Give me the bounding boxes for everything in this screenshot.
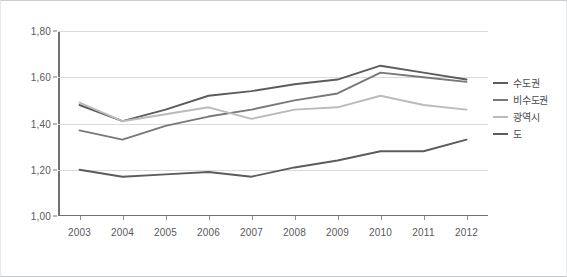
y-tick-label: 1,00 xyxy=(31,211,51,222)
x-tick-mark xyxy=(295,216,296,220)
x-tick-label: 2010 xyxy=(369,227,392,238)
legend: 수도권비수도권광역시도 xyxy=(493,75,563,143)
chart-figure: 1,001,201,401,601,80 2003200420052006200… xyxy=(0,0,567,277)
legend-label: 광역시 xyxy=(513,109,539,124)
y-tick-label: 1,60 xyxy=(31,72,51,83)
legend-item[interactable]: 수도권 xyxy=(493,75,563,90)
y-tick-mark xyxy=(53,77,57,78)
x-tick-mark xyxy=(381,216,382,220)
y-tick-label: 1,80 xyxy=(31,26,51,37)
legend-label: 수도권 xyxy=(513,75,539,90)
x-tick-label: 2012 xyxy=(455,227,478,238)
y-tick-mark xyxy=(53,216,57,217)
x-tick-mark xyxy=(123,216,124,220)
y-tick-mark xyxy=(53,123,57,124)
legend-color-swatch xyxy=(493,99,508,101)
series-lines xyxy=(58,31,488,216)
legend-item[interactable]: 도 xyxy=(493,126,563,141)
y-tick-label: 1,20 xyxy=(31,164,51,175)
x-tick-label: 2011 xyxy=(412,227,434,238)
x-tick-label: 2006 xyxy=(197,227,220,238)
legend-item[interactable]: 광역시 xyxy=(493,109,563,124)
x-tick-label: 2009 xyxy=(326,227,349,238)
x-tick-mark xyxy=(338,216,339,220)
y-tick-mark xyxy=(53,169,57,170)
series-line xyxy=(80,66,467,122)
x-tick-label: 2005 xyxy=(154,227,177,238)
x-tick-label: 2007 xyxy=(240,227,263,238)
x-tick-mark xyxy=(424,216,425,220)
legend-label: 도 xyxy=(513,126,522,141)
legend-label: 비수도권 xyxy=(513,92,548,107)
series-line xyxy=(80,73,467,140)
x-tick-mark xyxy=(467,216,468,220)
x-tick-mark xyxy=(252,216,253,220)
legend-item[interactable]: 비수도권 xyxy=(493,92,563,107)
x-tick-mark xyxy=(209,216,210,220)
y-tick-label: 1,40 xyxy=(31,118,51,129)
x-tick-label: 2003 xyxy=(68,227,91,238)
legend-color-swatch xyxy=(493,82,508,84)
series-line xyxy=(80,140,467,177)
legend-color-swatch xyxy=(493,116,508,118)
x-tick-label: 2004 xyxy=(111,227,134,238)
x-tick-label: 2008 xyxy=(283,227,306,238)
legend-color-swatch xyxy=(493,133,508,135)
x-tick-mark xyxy=(80,216,81,220)
plot-area: 1,001,201,401,601,80 2003200420052006200… xyxy=(58,31,488,216)
x-tick-mark xyxy=(166,216,167,220)
y-tick-mark xyxy=(53,31,57,32)
